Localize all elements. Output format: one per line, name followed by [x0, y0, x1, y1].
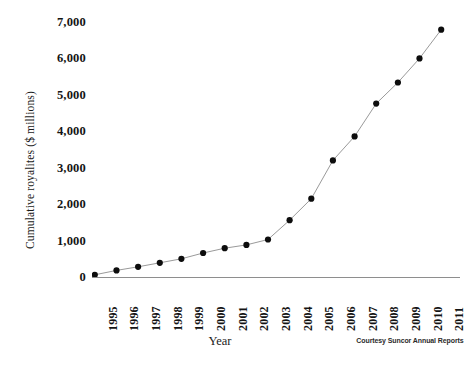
data-point-marker — [352, 133, 358, 139]
royalties-line-series — [92, 18, 460, 280]
x-axis-title: Year — [150, 334, 290, 349]
x-tick-label: 2004 — [301, 279, 316, 331]
x-tick-label: 2001 — [236, 279, 251, 331]
data-point-marker — [438, 27, 444, 33]
data-point-marker — [243, 242, 249, 248]
data-point-marker — [330, 157, 336, 163]
y-tick-label: 6,000 — [32, 52, 86, 65]
x-tick-label: 2010 — [431, 279, 446, 331]
source-credit: Courtesy Suncor Annual Reports — [357, 336, 464, 345]
data-point-marker — [373, 101, 379, 107]
y-tick-label: 4,000 — [32, 125, 86, 138]
x-tick-label: 1998 — [171, 279, 186, 331]
x-tick-label: 1997 — [149, 279, 164, 331]
x-tick-label: 2007 — [366, 279, 381, 331]
data-point-marker — [135, 264, 141, 270]
y-tick-label: 1,000 — [32, 235, 86, 248]
y-tick-label: 0 — [32, 271, 86, 284]
y-axis-tick-labels: 01,0002,0003,0004,0005,0006,0007,000 — [30, 0, 86, 368]
data-point-marker — [416, 55, 422, 61]
x-tick-label: 2008 — [387, 279, 402, 331]
data-point-marker — [113, 267, 119, 273]
x-tick-label: 1995 — [106, 279, 121, 331]
data-point-marker — [222, 245, 228, 251]
x-tick-label: 1999 — [192, 279, 207, 331]
x-tick-label: 2003 — [279, 279, 294, 331]
data-point-marker — [178, 256, 184, 262]
x-axis-line — [92, 277, 460, 278]
y-tick-label: 2,000 — [32, 198, 86, 211]
x-tick-label: 1996 — [127, 279, 142, 331]
x-tick-label: 2011 — [452, 279, 467, 331]
x-axis-tick-labels: 1995199619971998199920002001200220032004… — [92, 281, 460, 333]
data-point-marker — [157, 260, 163, 266]
data-point-marker — [287, 217, 293, 223]
x-tick-label: 2000 — [214, 279, 229, 331]
y-tick-label: 3,000 — [32, 162, 86, 175]
data-point-marker — [308, 196, 314, 202]
data-point-marker — [395, 79, 401, 85]
x-tick-label: 2005 — [322, 279, 337, 331]
chart-figure: Cumulative royalites ($ millions) 01,000… — [0, 0, 476, 368]
x-tick-label: 2006 — [344, 279, 359, 331]
y-tick-label: 7,000 — [32, 16, 86, 29]
plot-area — [92, 18, 460, 280]
x-tick-label: 2002 — [257, 279, 272, 331]
x-tick-label: 2009 — [409, 279, 424, 331]
data-point-marker — [265, 236, 271, 242]
y-tick-label: 5,000 — [32, 89, 86, 102]
data-point-marker — [200, 250, 206, 256]
